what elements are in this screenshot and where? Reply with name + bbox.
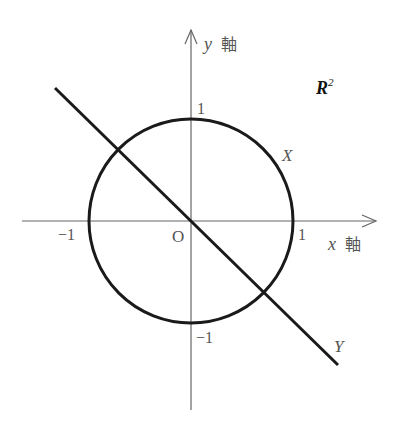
- circle-label: X: [281, 146, 293, 165]
- line-label: Y: [334, 337, 345, 356]
- tick-label-x-neg: −1: [58, 226, 75, 243]
- figure: y 軸 R2 1 −1 1 −1 O X Y x 軸: [0, 0, 396, 435]
- x-axis-label-group: x 軸: [327, 234, 361, 254]
- space-label: R2: [315, 76, 334, 98]
- tick-label-x-pos: 1: [298, 226, 306, 243]
- y-axis-label: y 軸: [202, 34, 237, 54]
- tick-label-y-pos: 1: [197, 100, 205, 117]
- tick-label-y-neg: −1: [196, 329, 213, 346]
- origin-label: O: [172, 227, 184, 246]
